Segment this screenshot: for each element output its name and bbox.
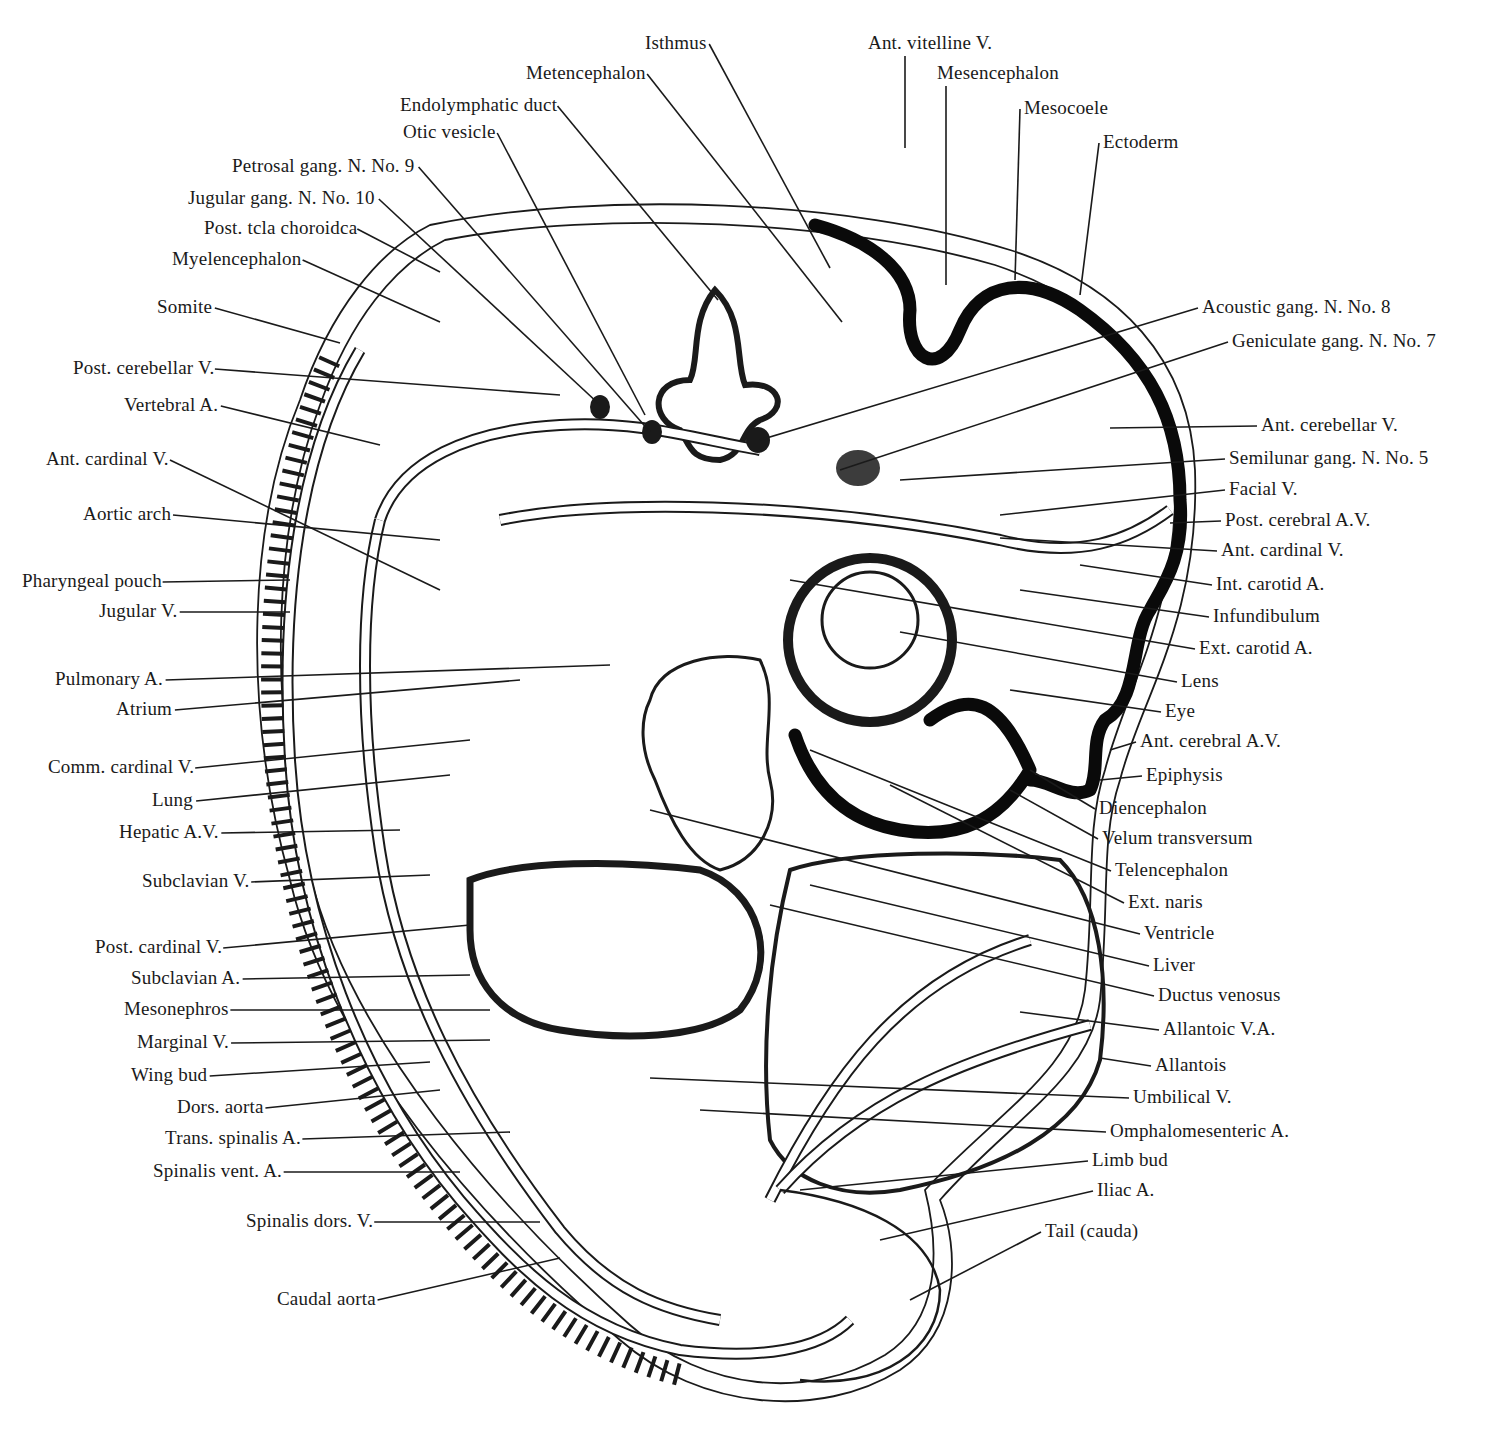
label-umbilical-v: Umbilical V. [1133, 1086, 1232, 1108]
label-int-carotid-a: Int. carotid A. [1216, 573, 1325, 595]
leader-subclavian-a [243, 975, 470, 979]
leader-lung [196, 775, 450, 801]
label-liver: Liver [1153, 954, 1195, 976]
allantois-shape [766, 853, 1104, 1192]
label-vertebral-a: Vertebral A. [124, 394, 218, 416]
label-mesonephros: Mesonephros [124, 998, 229, 1020]
liver-shape [470, 863, 761, 1036]
label-aortic-arch: Aortic arch [83, 503, 171, 525]
label-otic-vesicle: Otic vesicle [403, 121, 496, 143]
label-caudal-aorta: Caudal aorta [277, 1288, 376, 1310]
label-subclavian-v: Subclavian V. [142, 870, 249, 892]
label-infundibulum: Infundibulum [1213, 605, 1320, 627]
label-myelencephalon: Myelencephalon [172, 248, 301, 270]
tail-shape [780, 1190, 940, 1382]
spinal-column-core [288, 350, 850, 1354]
label-spinalis-vent-a: Spinalis vent. A. [153, 1160, 282, 1182]
spinal-column [288, 350, 850, 1354]
label-hepatic-av: Hepatic A.V. [119, 821, 219, 843]
leader-post-cardinal-v [223, 925, 470, 948]
eye-shape [788, 558, 952, 722]
label-ductus-venosus: Ductus venosus [1158, 984, 1281, 1006]
dorsal-aorta [365, 520, 720, 1320]
lens-shape [822, 572, 918, 668]
label-lung: Lung [152, 789, 193, 811]
label-post-tela-choroidea: Post. tcla choroidca [204, 217, 357, 239]
leader-eye [1010, 690, 1161, 712]
label-comm-cardinal-v: Comm. cardinal V. [48, 756, 194, 778]
label-omphalomesenteric-a: Omphalomesenteric A. [1110, 1120, 1289, 1142]
label-metencephalon: Metencephalon [526, 62, 646, 84]
label-jugular-gang: Jugular gang. N. No. 10 [188, 187, 375, 209]
label-acoustic-gang: Acoustic gang. N. No. 8 [1202, 296, 1391, 318]
leader-allantois [1100, 1058, 1151, 1066]
leader-wing-bud [210, 1062, 430, 1076]
leader-otic-vesicle [497, 133, 645, 415]
label-spinalis-dors-v: Spinalis dors. V. [246, 1210, 373, 1232]
label-ectoderm: Ectoderm [1103, 131, 1178, 153]
embryo-diagram: IsthmusMetencephalonEndolymphatic ductOt… [0, 0, 1511, 1445]
leader-post-cerebellar-v [215, 369, 560, 395]
leader-mesocoele [1015, 109, 1020, 280]
label-isthmus: Isthmus [645, 32, 707, 54]
leader-petrosal-gang [419, 167, 650, 432]
leader-omphalomesenteric-a [700, 1110, 1106, 1132]
label-iliac-a: Iliac A. [1097, 1179, 1155, 1201]
label-wing-bud: Wing bud [131, 1064, 207, 1086]
leader-jugular-gang [379, 199, 600, 405]
label-post-cerebellar-v: Post. cerebellar V. [73, 357, 214, 379]
label-facial-v: Facial V. [1229, 478, 1298, 500]
leader-somite [215, 308, 340, 343]
semilunar-ganglion [836, 450, 880, 486]
leader-tail-cauda [910, 1232, 1041, 1300]
label-subclavian-a: Subclavian A. [131, 967, 240, 989]
label-lens: Lens [1181, 670, 1219, 692]
label-diencephalon: Diencephalon [1099, 797, 1207, 819]
leader-endolymphatic-duct [558, 106, 718, 300]
label-ext-naris: Ext. naris [1128, 891, 1203, 913]
leader-pharyngeal-pouch [163, 580, 290, 582]
label-ant-cardinal-v-right: Ant. cardinal V. [1221, 539, 1344, 561]
inner-outline [281, 223, 1175, 1383]
label-petrosal-gang: Petrosal gang. N. No. 9 [232, 155, 414, 177]
label-allantoic-va: Allantoic V.A. [1163, 1018, 1275, 1040]
label-epiphysis: Epiphysis [1146, 764, 1223, 786]
leader-subclavian-v [251, 875, 430, 882]
leader-ext-carotid-a [790, 580, 1195, 649]
label-trans-spinalis-a: Trans. spinalis A. [165, 1127, 301, 1149]
leader-vertebral-a [221, 406, 380, 445]
label-ant-cerebellar-v: Ant. cerebellar V. [1261, 414, 1398, 436]
leader-ductus-venosus [770, 905, 1154, 996]
label-ant-cardinal-v-left: Ant. cardinal V. [46, 448, 169, 470]
heart-shape [643, 656, 773, 870]
label-pulmonary-a: Pulmonary A. [55, 668, 163, 690]
label-semilunar-gang: Semilunar gang. N. No. 5 [1229, 447, 1429, 469]
telencephalon-wall [795, 704, 1030, 832]
label-post-cerebral-av: Post. cerebral A.V. [1225, 509, 1370, 531]
label-post-cardinal-v: Post. cardinal V. [95, 936, 222, 958]
label-ext-carotid-a: Ext. carotid A. [1199, 637, 1313, 659]
leader-isthmus [709, 44, 830, 268]
leader-ant-cerebellar-v [1110, 426, 1257, 428]
label-geniculate-gang: Geniculate gang. N. No. 7 [1232, 330, 1436, 352]
label-ant-vitelline-v: Ant. vitelline V. [868, 32, 992, 54]
label-atrium: Atrium [116, 698, 172, 720]
leader-myelencephalon [303, 260, 440, 322]
label-jugular-v: Jugular V. [99, 600, 177, 622]
label-dors-aorta: Dors. aorta [177, 1096, 264, 1118]
label-somite: Somite [157, 296, 212, 318]
label-pharyngeal-pouch: Pharyngeal pouch [22, 570, 162, 592]
label-eye: Eye [1165, 700, 1195, 722]
label-mesencephalon: Mesencephalon [937, 62, 1059, 84]
leader-pulmonary-a [166, 665, 610, 680]
label-telencephalon: Telencephalon [1115, 859, 1228, 881]
label-allantois: Allantois [1155, 1054, 1226, 1076]
label-marginal-v: Marginal V. [137, 1031, 229, 1053]
leader-comm-cardinal-v [195, 740, 470, 768]
leader-atrium [175, 680, 520, 710]
leader-dors-aorta [265, 1090, 440, 1108]
leader-ectoderm [1080, 143, 1099, 295]
leader-facial-v [1000, 490, 1225, 515]
label-tail-cauda: Tail (cauda) [1045, 1220, 1138, 1242]
leader-limb-bud [800, 1161, 1088, 1190]
